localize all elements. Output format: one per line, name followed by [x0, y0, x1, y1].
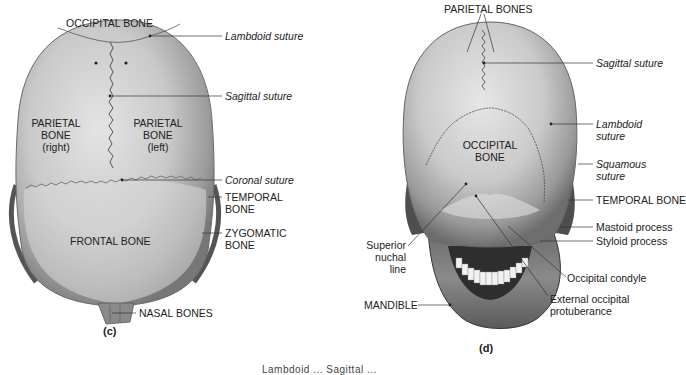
callout-lambdoid-suture-c: Lambdoid suture — [225, 30, 303, 42]
label-line: PARIETAL — [28, 117, 84, 129]
callout-lambdoid-suture-d: Lambdoid suture — [596, 118, 642, 142]
callout-mandible: MANDIBLE — [364, 299, 418, 311]
label-line: BONE — [225, 203, 283, 215]
label-line: nuchal — [360, 251, 406, 263]
posterior-view-skull — [403, 14, 593, 329]
label-line: BONE — [28, 129, 84, 141]
callout-sagittal-suture-c: Sagittal suture — [225, 90, 292, 102]
label-occipital-bone-c: OCCIPITAL BONE — [66, 17, 153, 29]
label-line: External occipital — [550, 293, 629, 305]
label-line: BONE — [225, 239, 287, 251]
label-line: ZYGOMATIC — [225, 227, 287, 239]
label-frontal-bone: FRONTAL BONE — [70, 235, 151, 247]
callout-sagittal-suture-d: Sagittal suture — [596, 57, 663, 69]
label-occipital-bone-d: OCCIPITAL BONE — [455, 139, 525, 163]
callout-coronal-suture: Coronal suture — [225, 174, 294, 186]
label-line: BONE — [130, 129, 186, 141]
clipped-caption: Lambdoid ... Sagittal ... — [262, 364, 377, 375]
label-line: line — [360, 263, 406, 275]
nasal-bones — [98, 303, 134, 324]
label-line: PARIETAL — [130, 117, 186, 129]
label-parietal-left: PARIETAL BONE (left) — [130, 117, 186, 153]
superior-view-skull — [11, 20, 222, 324]
label-line: Squamous — [596, 158, 646, 170]
panel-label-c: (c) — [103, 325, 116, 337]
callout-superior-nuchal-line: Superior nuchal line — [360, 239, 406, 275]
label-parietal-right: PARIETAL BONE (right) — [28, 117, 84, 153]
label-line: TEMPORAL — [225, 191, 283, 203]
callout-occipital-condyle: Occipital condyle — [567, 272, 646, 284]
panel-label-d: (d) — [479, 342, 493, 354]
callout-nasal-bones: NASAL BONES — [139, 307, 213, 319]
label-line: Lambdoid — [596, 118, 642, 130]
callout-squamous-suture: Squamous suture — [596, 158, 646, 182]
label-line: (right) — [28, 141, 84, 153]
label-line: suture — [596, 170, 646, 182]
label-line: Superior — [360, 239, 406, 251]
label-line: protuberance — [550, 305, 629, 317]
callout-styloid-process: Styloid process — [596, 235, 667, 247]
label-line: (left) — [130, 141, 186, 153]
callout-external-occipital-protuberance: External occipital protuberance — [550, 293, 629, 317]
label-line: BONE — [455, 151, 525, 163]
callout-temporal-bone-d: TEMPORAL BONE — [596, 194, 686, 206]
callout-zygomatic-bone: ZYGOMATIC BONE — [225, 227, 287, 251]
callout-temporal-bone-c: TEMPORAL BONE — [225, 191, 283, 215]
label-parietal-bones: PARIETAL BONES — [444, 3, 533, 15]
label-line: OCCIPITAL — [455, 139, 525, 151]
label-line: suture — [596, 130, 642, 142]
callout-mastoid-process: Mastoid process — [596, 221, 672, 233]
